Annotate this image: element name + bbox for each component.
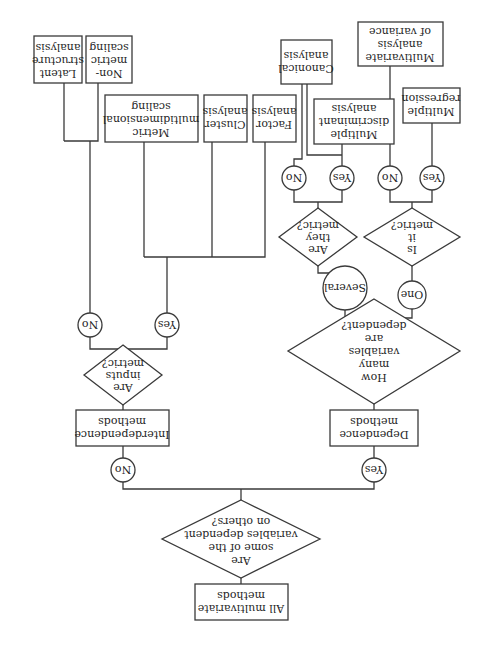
svg-text:some of the: some of the (209, 541, 274, 554)
svg-text:metric: metric (91, 54, 127, 67)
no-circle-interdependence: No (111, 458, 135, 482)
decision-is-it-metric: Is it metric? (364, 208, 460, 266)
leaf-nonmetric-scaling: Non- metric scaling (86, 36, 132, 83)
svg-text:discriminant: discriminant (318, 115, 389, 128)
svg-text:are: are (365, 332, 383, 345)
decision-are-they-metric: Are they metric? (279, 208, 357, 266)
svg-text:dependent?: dependent? (341, 319, 406, 332)
svg-text:Interdependence: Interdependence (74, 428, 169, 441)
svg-text:Yes: Yes (157, 318, 177, 331)
svg-text:Metric: Metric (132, 126, 169, 139)
svg-text:All multivariate: All multivariate (198, 602, 286, 615)
svg-text:on others?: on others? (212, 515, 271, 528)
svg-text:scaling: scaling (89, 41, 129, 54)
svg-text:Multiple: Multiple (408, 105, 455, 118)
leaf-multiple-regression: Multiple regression (401, 88, 460, 123)
svg-text:regression: regression (401, 92, 460, 105)
leaf-multivariate-analysis-of-variance: Multivariate analysis of variance (358, 22, 443, 66)
svg-text:analysis: analysis (35, 41, 80, 54)
svg-text:metric?: metric? (297, 219, 339, 232)
svg-text:Cluster: Cluster (204, 118, 246, 131)
svg-text:methods: methods (98, 415, 146, 428)
svg-text:Dependence: Dependence (339, 428, 408, 441)
svg-text:How: How (361, 371, 387, 384)
svg-text:variables: variables (348, 345, 400, 358)
svg-text:No: No (286, 171, 303, 184)
svg-text:variables dependent: variables dependent (184, 528, 299, 541)
svg-text:Non-: Non- (95, 67, 122, 80)
svg-text:metric?: metric? (102, 357, 144, 370)
one-circle: One (398, 281, 426, 309)
svg-text:One: One (401, 288, 424, 301)
svg-text:Multiple: Multiple (331, 128, 378, 141)
no-circle-nonmetric-methods: No (78, 313, 102, 337)
multivariate-methods-flowchart: All multivariate methods Are some of the… (0, 0, 499, 658)
svg-text:of variance: of variance (369, 25, 431, 38)
svg-text:methods: methods (217, 589, 265, 602)
svg-text:Canonical: Canonical (278, 62, 334, 75)
svg-text:Latent: Latent (39, 67, 76, 80)
svg-text:No: No (82, 318, 99, 331)
svg-text:analysis: analysis (251, 105, 296, 118)
interdependence-methods-box: Interdependence methods (74, 410, 169, 446)
several-circle: Several (323, 266, 367, 310)
svg-text:No: No (382, 171, 399, 184)
svg-text:Yes: Yes (422, 171, 442, 184)
svg-text:analysis: analysis (202, 105, 247, 118)
svg-text:many: many (358, 358, 389, 371)
svg-text:Multivariate: Multivariate (366, 51, 435, 64)
svg-text:metric?: metric? (391, 219, 433, 232)
svg-text:Factor: Factor (255, 118, 292, 131)
no-circle-canonical: No (282, 166, 306, 190)
svg-text:Yes: Yes (332, 171, 352, 184)
root-box: All multivariate methods (195, 584, 288, 620)
svg-text:analysis: analysis (283, 49, 328, 62)
svg-text:Are: Are (231, 554, 252, 567)
yes-circle-dependence: Yes (362, 458, 386, 482)
svg-text:structure: structure (32, 54, 84, 67)
yes-circle-regression: Yes (420, 166, 444, 190)
svg-text:scaling: scaling (131, 100, 171, 113)
svg-text:multidimensional: multidimensional (102, 113, 199, 126)
dependence-methods-box: Dependence methods (330, 410, 418, 446)
svg-text:Several: Several (323, 281, 366, 294)
svg-text:No: No (115, 463, 132, 476)
svg-text:methods: methods (350, 415, 398, 428)
yes-circle-metric-methods: Yes (155, 313, 179, 337)
svg-text:analysis: analysis (377, 38, 422, 51)
decision-how-many-dependent: How many variables are dependent? (288, 299, 460, 404)
decision-dependent-variables: Are some of the variables dependent on o… (162, 500, 320, 578)
leaf-latent-structure-analysis: Latent structure analysis (32, 36, 84, 83)
leaf-canonical-analysis: Canonical analysis (278, 40, 334, 84)
svg-text:analysis: analysis (331, 102, 376, 115)
yes-circle-discriminant: Yes (330, 166, 354, 190)
leaf-factor-analysis: Factor analysis (251, 95, 296, 142)
svg-text:Yes: Yes (364, 463, 384, 476)
leaf-metric-multidimensional-scaling: Metric multidimensional scaling (102, 95, 199, 142)
no-circle-manova: No (378, 166, 402, 190)
leaf-multiple-discriminant-analysis: Multiple discriminant analysis (314, 99, 394, 144)
decision-are-inputs-metric: Are inputs metric? (84, 345, 162, 405)
leaf-cluster-analysis: Cluster analysis (202, 95, 247, 142)
